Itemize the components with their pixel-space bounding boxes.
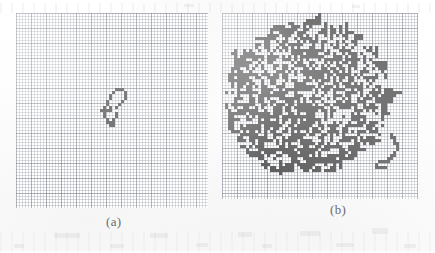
lattice-cell (345, 43, 348, 46)
lattice-cell (387, 112, 390, 115)
lattice-cell (321, 127, 324, 130)
lattice-cell (309, 88, 312, 91)
lattice-cell (112, 91, 115, 94)
lattice-cell (276, 55, 279, 58)
lattice-cell (303, 133, 306, 136)
lattice-cell (273, 34, 276, 37)
lattice-cell (234, 58, 237, 61)
lattice-cell (345, 73, 348, 76)
lattice-cell (327, 148, 330, 151)
lattice-cell (390, 88, 393, 91)
lattice-cell (360, 124, 363, 127)
lattice-cell (342, 157, 345, 160)
lattice-cell (279, 94, 282, 97)
lattice-cell (273, 169, 276, 172)
lattice-cell (363, 148, 366, 151)
lattice-cell (318, 22, 321, 25)
lattice-cell (321, 28, 324, 31)
lattice-cell (318, 106, 321, 109)
lattice-cell (342, 103, 345, 106)
ghost-mark (262, 244, 272, 248)
lattice-cell (315, 127, 318, 130)
lattice-cell (327, 88, 330, 91)
lattice-cell (261, 82, 264, 85)
lattice-cell (330, 145, 333, 148)
lattice-cell (267, 46, 270, 49)
ghost-mark (238, 232, 252, 237)
lattice-cell (354, 91, 357, 94)
lattice-cell (279, 172, 282, 175)
lattice-cell (336, 133, 339, 136)
lattice-cell (288, 145, 291, 148)
lattice-cell (369, 82, 372, 85)
lattice-cell (237, 136, 240, 139)
lattice-cell (276, 64, 279, 67)
ghost-mark (404, 244, 416, 248)
lattice-cell (360, 148, 363, 151)
lattice-cell (264, 103, 267, 106)
lattice-cell (366, 70, 369, 73)
lattice-cell (303, 40, 306, 43)
lattice-cell (124, 97, 127, 100)
lattice-cell (237, 67, 240, 70)
lattice-cell (261, 55, 264, 58)
lattice-cell (375, 55, 378, 58)
lattice-cell (291, 97, 294, 100)
lattice-cell (342, 130, 345, 133)
lattice-cell (261, 97, 264, 100)
lattice-cell (324, 118, 327, 121)
lattice-cell (354, 34, 357, 37)
lattice-cell (330, 139, 333, 142)
lattice-cell (354, 142, 357, 145)
lattice-cell (390, 100, 393, 103)
lattice-cell (279, 85, 282, 88)
lattice-cell (273, 76, 276, 79)
lattice-cell (375, 112, 378, 115)
lattice-cell (231, 52, 234, 55)
lattice-cell (318, 13, 321, 16)
lattice-cell (372, 142, 375, 145)
lattice-cell (390, 157, 393, 160)
lattice-cell (375, 76, 378, 79)
lattice-cell (327, 52, 330, 55)
lattice-cell (378, 133, 381, 136)
lattice-cell (366, 64, 369, 67)
lattice-cell (348, 79, 351, 82)
lattice-cell (228, 79, 231, 82)
lattice-cell (261, 58, 264, 61)
lattice-cell (252, 109, 255, 112)
lattice-cell (282, 151, 285, 154)
lattice-cell (315, 64, 318, 67)
ghost-mark (150, 233, 168, 238)
panel-a-cells (16, 13, 208, 208)
panel-b-cells (222, 13, 418, 199)
lattice-cell (321, 49, 324, 52)
lattice-cell (381, 160, 384, 163)
lattice-cell (291, 31, 294, 34)
lattice-cell (234, 100, 237, 103)
lattice-cell (318, 142, 321, 145)
lattice-cell (342, 34, 345, 37)
lattice-cell (297, 82, 300, 85)
lattice-cell (279, 106, 282, 109)
lattice-cell (324, 34, 327, 37)
lattice-cell (363, 142, 366, 145)
lattice-cell (354, 136, 357, 139)
lattice-cell (345, 25, 348, 28)
lattice-cell (342, 76, 345, 79)
lattice-cell (330, 127, 333, 130)
lattice-cell (381, 109, 384, 112)
lattice-cell (249, 139, 252, 142)
lattice-cell (339, 154, 342, 157)
lattice-cell (375, 49, 378, 52)
lattice-cell (276, 76, 279, 79)
lattice-cell (339, 94, 342, 97)
panel-a-caption: (a) (106, 214, 121, 230)
lattice-cell (333, 124, 336, 127)
lattice-cell (270, 58, 273, 61)
lattice-cell (351, 46, 354, 49)
lattice-cell (252, 97, 255, 100)
lattice-cell (243, 52, 246, 55)
lattice-cell (372, 124, 375, 127)
lattice-cell (324, 40, 327, 43)
